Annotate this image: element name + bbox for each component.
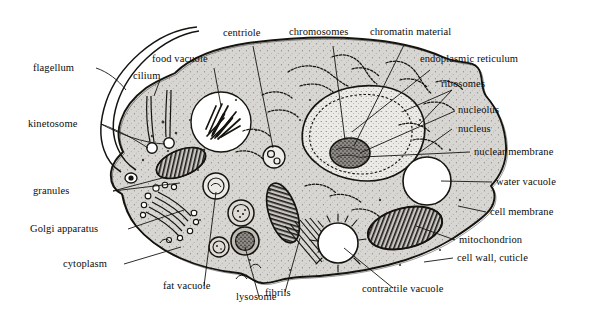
label-golgi-apparatus: Golgi apparatus: [30, 224, 98, 235]
label-granules: granules: [33, 186, 69, 197]
label-cell-wall-cuticle: cell wall, cuticle: [457, 253, 528, 264]
label-cell-membrane: cell membrane: [490, 207, 553, 218]
nucleus-shape: [302, 86, 425, 181]
label-chromatin-material: chromatin material: [370, 27, 451, 38]
label-cytoplasm: cytoplasm: [63, 259, 107, 270]
label-chromosomes: chromosomes: [289, 27, 348, 38]
label-kinetosome: kinetosome: [28, 119, 77, 130]
label-contractile-vacuole: contractile vacuole: [362, 284, 443, 295]
label-nucleus: nucleus: [458, 124, 491, 135]
label-nucleolus: nucleolus: [458, 105, 499, 116]
label-water-vacuole: water vacuole: [496, 177, 556, 188]
centriole-shape: [263, 146, 285, 168]
label-centriole: centriole: [223, 28, 261, 39]
food-vacuole-shape: [191, 92, 251, 152]
label-mitochondrion: mitochondrion: [459, 235, 522, 246]
label-nuclear-membrane: nuclear membrane: [474, 147, 553, 158]
label-food-vacuole: food vacuole: [152, 54, 208, 65]
label-ribosomes: ribosomes: [441, 79, 485, 90]
label-fat-vacuole: fat vacuole: [163, 281, 210, 292]
label-endoplasmic-reticulum: endoplasmic reticulum: [420, 54, 518, 65]
cell-diagram: flagellum cilium kinetosome food vacuole…: [0, 0, 595, 309]
label-flagellum: flagellum: [33, 63, 74, 74]
label-cilium: cilium: [133, 71, 160, 82]
nucleolus-shape: [330, 138, 370, 168]
label-lysosome: lysosome: [236, 292, 276, 303]
